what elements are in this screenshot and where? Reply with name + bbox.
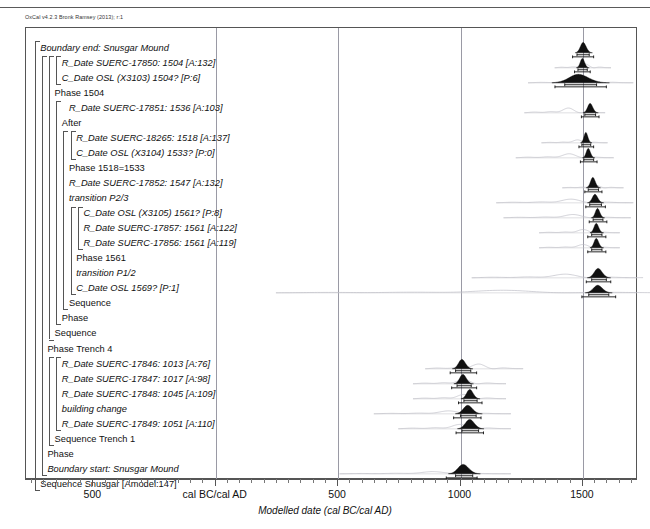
prior-distribution-curve: [472, 274, 643, 278]
x-axis-title: Modelled date (cal BC/cal AD): [0, 505, 650, 516]
model-row-label: Phase: [62, 312, 88, 325]
range-bar-95: [456, 431, 483, 434]
range-bar-95: [581, 115, 599, 118]
axis-tick-minor: [570, 479, 571, 483]
distribution-plot: [25, 356, 637, 371]
axis-tick-minor: [557, 479, 558, 483]
axis-tick-minor: [202, 479, 203, 483]
distribution-plot: [25, 190, 637, 205]
posterior-distribution-curve: [590, 223, 604, 232]
axis-tick-minor: [166, 479, 167, 483]
range-bar-95: [580, 160, 597, 163]
prior-distribution-curve: [539, 245, 620, 248]
axis-tick-major: [337, 479, 338, 486]
axis-tick-minor: [545, 479, 546, 483]
range-bar-68: [584, 158, 594, 161]
axis-tick-major: [92, 479, 93, 486]
distribution-plot: [25, 220, 637, 235]
distribution-plot: [25, 416, 637, 431]
axis-tick-minor: [325, 479, 326, 483]
posterior-distribution-curve: [586, 177, 600, 187]
prior-distribution-curve: [425, 364, 523, 369]
posterior-distribution-curve: [454, 374, 474, 383]
model-rows-container: Boundary end: Snusgar MoundR_Date SUERC-…: [25, 27, 637, 479]
axis-tick-minor: [43, 479, 44, 483]
axis-tick-major: [460, 479, 461, 486]
axis-tick-minor: [154, 479, 155, 483]
nesting-bracket-bottom: [49, 340, 54, 341]
axis-tick-label: 1000: [448, 488, 471, 500]
axis-tick-minor: [398, 479, 399, 483]
prior-distribution-curve: [340, 472, 511, 474]
oxcal-version-credit: OxCal v4.2.3 Bronk Ramsey (2013); r:1: [25, 14, 123, 20]
range-bar-95: [588, 251, 606, 254]
distribution-plot: [25, 280, 637, 295]
range-bar-68: [589, 294, 609, 297]
prior-distribution-curve: [541, 140, 607, 143]
posterior-distribution-curve: [576, 58, 589, 67]
model-row-label: Phase: [47, 448, 73, 461]
nesting-bracket-bottom: [56, 324, 61, 325]
axis-tick-minor: [251, 479, 252, 483]
range-bar-68: [462, 429, 479, 432]
range-bar-68: [456, 474, 473, 477]
nesting-bracket-bottom: [49, 445, 54, 446]
prior-distribution-curve: [398, 424, 511, 428]
axis-tick-major: [215, 479, 216, 486]
axis-tick-minor: [619, 479, 620, 483]
axis-tick-minor: [264, 479, 265, 483]
axis-tick-minor: [386, 479, 387, 483]
posterior-distribution-curve: [587, 269, 610, 278]
posterior-distribution-curve: [588, 194, 604, 203]
axis-tick-minor: [239, 479, 240, 483]
axis-tick-minor: [374, 479, 375, 483]
distribution-plot: [25, 371, 637, 386]
axis-tick-label: 1500: [570, 488, 593, 500]
posterior-distribution-curve: [585, 286, 612, 294]
axis-tick-minor: [300, 479, 301, 483]
axis-tick-label: cal BC/cal AD: [183, 488, 247, 500]
posterior-distribution-curve: [552, 74, 610, 83]
prior-distribution-curve: [516, 154, 614, 158]
axis-tick-major: [582, 479, 583, 486]
axis-tick-minor: [631, 479, 632, 483]
axis-tick-minor: [349, 479, 350, 483]
distribution-plot: [25, 130, 637, 145]
axis-tick-minor: [178, 479, 179, 483]
model-row-label: Phase Trench 4: [47, 343, 112, 356]
distribution-plot: [25, 145, 637, 160]
axis-tick-minor: [362, 479, 363, 483]
axis-tick-minor: [484, 479, 485, 483]
posterior-distribution-curve: [591, 208, 604, 217]
axis-tick-minor: [80, 479, 81, 483]
axis-tick-minor: [68, 479, 69, 483]
axis-tick-minor: [508, 479, 509, 483]
axis-tick-minor: [117, 479, 118, 483]
axis-tick-minor: [227, 479, 228, 483]
distribution-plot: [25, 265, 637, 280]
distribution-plot: [25, 100, 637, 115]
distribution-plot: [25, 175, 637, 190]
range-bar-68: [565, 83, 597, 86]
axis-tick-minor: [56, 479, 57, 483]
axis-tick-minor: [276, 479, 277, 483]
prior-distribution-curve: [374, 411, 511, 414]
range-bar-95: [555, 85, 606, 88]
axis-tick-minor: [129, 479, 130, 483]
model-row-label: Sequence: [55, 327, 97, 340]
posterior-distribution-curve: [581, 132, 592, 142]
range-bar-68: [592, 248, 602, 251]
posterior-distribution-curve: [583, 103, 598, 112]
distribution-plot: [25, 55, 637, 70]
top-rule: [0, 7, 650, 8]
axis-tick-label: 500: [328, 488, 346, 500]
distribution-plot: [25, 205, 637, 220]
posterior-distribution-curve: [452, 359, 473, 368]
axis-tick-minor: [288, 479, 289, 483]
axis-tick-minor: [190, 479, 191, 483]
nesting-bracket-bottom: [63, 309, 68, 310]
distribution-plot: [25, 461, 637, 476]
axis-tick-minor: [496, 479, 497, 483]
posterior-distribution-curve: [448, 464, 480, 473]
distribution-plot: [25, 40, 637, 55]
